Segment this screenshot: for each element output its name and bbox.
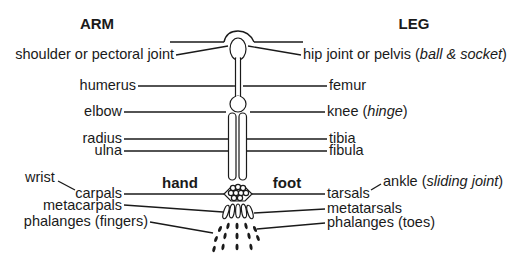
foot-header: foot [273,174,301,191]
label-knee: knee (hinge) [327,103,408,119]
carpals-tarsals-icon [224,184,252,201]
phalanges-icon [212,223,261,253]
label-humerus: humerus [80,77,136,93]
label-ulna: ulna [95,142,123,158]
label-elbow: elbow [84,103,122,119]
humerus-femur-bone-icon [230,38,246,112]
label-fibula: fibula [329,142,365,158]
label-phalanges-fingers: phalanges (fingers) [24,213,148,229]
radius-ulna-tibia-fibula-bone-icon [229,113,247,180]
leg-header: LEG [399,15,430,32]
label-metacarpals: metacarpals [43,197,122,213]
label-shoulder: shoulder or pectoral joint [15,46,174,62]
arm-header: ARM [80,15,114,32]
label-femur: femur [329,77,366,93]
hand-header: hand [162,174,198,191]
label-ankle: ankle (sliding joint) [383,173,503,189]
label-phalanges-toes: phalanges (toes) [327,214,435,230]
metacarpals-metatarsals-icon [222,204,255,220]
limb-homology-diagram: ARM LEG hand foot [0,0,525,269]
label-tarsals: tarsals [327,185,370,201]
label-wrist: wrist [24,169,55,185]
label-hip: hip joint or pelvis (ball & socket) [303,46,507,62]
